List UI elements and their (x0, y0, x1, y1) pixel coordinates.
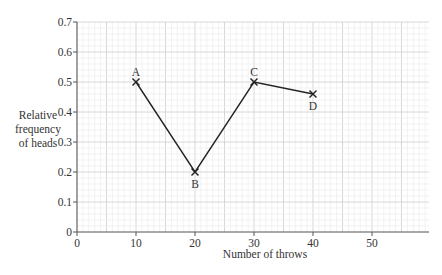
x-tick-label: 50 (366, 237, 378, 249)
point-label: C (250, 66, 258, 78)
y-tick-label: 0.5 (58, 76, 73, 88)
point-label: D (309, 100, 317, 112)
y-axis-label-line-3: of heads (2, 136, 74, 150)
x-tick-label: 0 (74, 237, 80, 249)
y-tick-label: 0.2 (58, 166, 73, 178)
y-tick-label: 0.1 (58, 196, 73, 208)
x-axis-label: Number of throws (175, 248, 355, 260)
grid-lines (77, 22, 429, 232)
point-label: B (191, 178, 199, 190)
y-tick-label: 0 (66, 226, 72, 238)
y-axis-label: Relative frequency of heads (2, 108, 74, 150)
x-tick-label: 10 (130, 237, 142, 249)
y-tick-label: 0.6 (58, 46, 73, 58)
point-label: A (132, 66, 141, 78)
y-axis-label-line-1: Relative (2, 108, 74, 122)
y-axis-label-line-2: frequency (2, 122, 74, 136)
y-tick-label: 0.7 (58, 16, 73, 28)
